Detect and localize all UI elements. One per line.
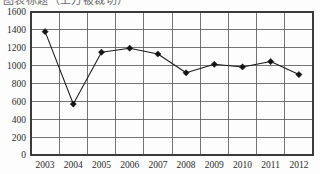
y-tick-label: 800: [12, 79, 27, 89]
x-tick-label: 2009: [205, 160, 224, 170]
data-point-marker: [70, 101, 76, 107]
chart-screenshot: 图表标题（上方被裁切） 0200400600800100012001400160…: [0, 0, 320, 174]
data-point-marker: [268, 59, 274, 65]
y-tick-label: 1400: [7, 25, 26, 35]
y-tick-label: 1000: [7, 61, 26, 71]
x-tick-label: 2005: [92, 160, 111, 170]
line-chart: 02004006008001000120014001600 2003200420…: [0, 0, 320, 174]
data-point-marker: [155, 51, 161, 57]
y-tick-label: 1600: [7, 7, 26, 17]
x-tick-label: 2010: [233, 160, 252, 170]
x-tick-label: 2004: [64, 160, 83, 170]
y-axis-tick-labels: 02004006008001000120014001600: [7, 7, 26, 160]
chart-canvas: 02004006008001000120014001600 2003200420…: [0, 0, 320, 174]
y-tick-label: 400: [12, 115, 27, 125]
data-point-marker: [183, 70, 189, 76]
data-point-marker: [98, 49, 104, 55]
y-tick-label: 200: [12, 133, 27, 143]
x-axis-tick-labels: 2003200420052006200720082009201020112012: [36, 160, 309, 170]
y-tick-label: 600: [12, 97, 27, 107]
x-tick-label: 2006: [120, 160, 139, 170]
data-point-marker: [296, 71, 302, 77]
y-tick-label: 1200: [7, 43, 26, 53]
data-point-marker: [211, 61, 217, 67]
x-tick-label: 2003: [36, 160, 55, 170]
x-tick-label: 2008: [177, 160, 196, 170]
data-point-marker: [239, 64, 245, 70]
x-tick-label: 2011: [261, 160, 280, 170]
x-tick-label: 2012: [289, 160, 308, 170]
x-tick-label: 2007: [148, 160, 167, 170]
data-point-marker: [127, 45, 133, 51]
y-tick-label: 0: [21, 150, 26, 160]
